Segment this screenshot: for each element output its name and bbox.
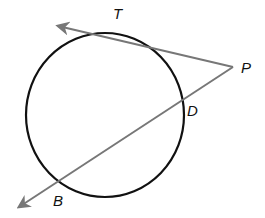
tangent-ray-PT	[58, 26, 233, 67]
label-T: T	[113, 6, 122, 21]
label-P: P	[241, 60, 251, 75]
secant-ray-PB	[19, 67, 233, 207]
label-D: D	[187, 103, 198, 118]
label-B: B	[53, 193, 63, 208]
geometry-figure	[0, 0, 265, 218]
